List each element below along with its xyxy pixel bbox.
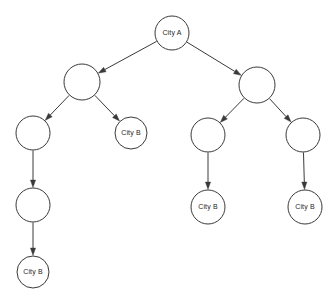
tree-edge bbox=[205, 153, 210, 190]
tree-node-labeled[interactable]: City B bbox=[288, 190, 322, 224]
arrowhead-icon bbox=[30, 180, 35, 188]
node-circle[interactable] bbox=[16, 116, 50, 150]
tree-edge bbox=[220, 98, 244, 122]
arrowhead-icon bbox=[98, 67, 106, 73]
arrowhead-icon bbox=[205, 182, 210, 190]
tree-node-labeled[interactable]: City B bbox=[191, 190, 225, 224]
tree-node-labeled[interactable]: City A bbox=[155, 16, 189, 50]
tree-edge bbox=[98, 41, 156, 73]
node-circle[interactable] bbox=[191, 118, 225, 152]
node-label: City B bbox=[295, 203, 315, 211]
node-layer: City ACity BCity BCity BCity B bbox=[16, 16, 322, 288]
tree-node-blank[interactable] bbox=[191, 118, 225, 152]
tree-node-blank[interactable] bbox=[286, 118, 320, 152]
tree-edge bbox=[95, 95, 120, 121]
node-circle[interactable] bbox=[64, 64, 100, 100]
arrowhead-icon bbox=[302, 182, 307, 190]
tree-node-labeled[interactable]: City B bbox=[17, 256, 49, 288]
node-label: City B bbox=[121, 129, 141, 137]
node-circle[interactable] bbox=[286, 118, 320, 152]
arrowhead-icon bbox=[30, 248, 35, 256]
node-label: City A bbox=[162, 29, 181, 37]
arrowhead-icon bbox=[233, 69, 241, 75]
tree-edge bbox=[187, 42, 241, 75]
node-circle[interactable] bbox=[239, 67, 275, 103]
tree-node-blank[interactable] bbox=[239, 67, 275, 103]
tree-edge bbox=[30, 151, 35, 188]
tree-node-labeled[interactable]: City B bbox=[115, 117, 147, 149]
node-circle[interactable] bbox=[16, 188, 50, 222]
tree-edge bbox=[302, 152, 307, 189]
diagram-svg-surface: City ACity BCity BCity BCity B bbox=[0, 0, 335, 306]
tree-diagram: City ACity BCity BCity BCity B bbox=[0, 0, 335, 306]
tree-edge bbox=[45, 95, 69, 120]
tree-node-blank[interactable] bbox=[64, 64, 100, 100]
node-label: City B bbox=[198, 203, 218, 211]
tree-edge bbox=[30, 223, 35, 256]
tree-node-blank[interactable] bbox=[16, 188, 50, 222]
tree-node-blank[interactable] bbox=[16, 116, 50, 150]
tree-edge bbox=[270, 99, 292, 123]
node-label: City B bbox=[23, 268, 43, 276]
